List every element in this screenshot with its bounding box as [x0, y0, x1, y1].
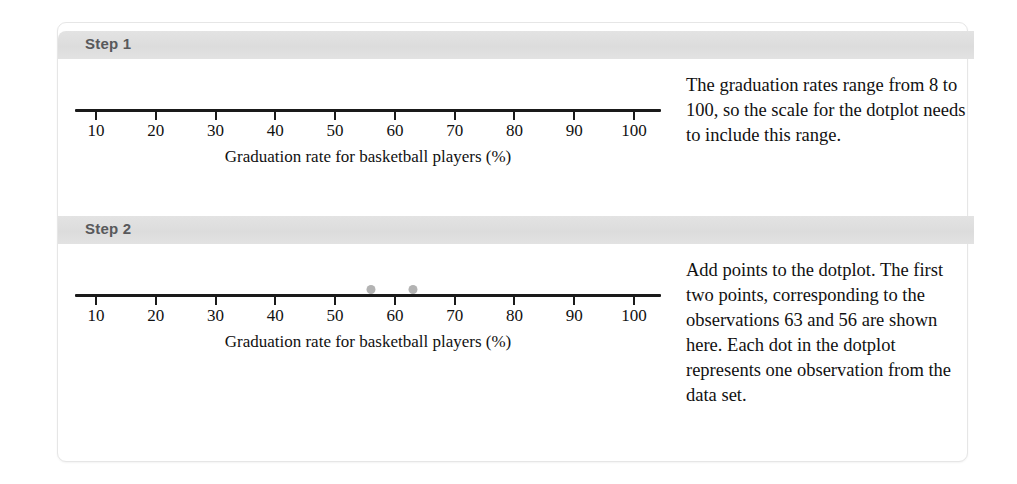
axis-title-step-1: Graduation rate for basketball players (…	[58, 147, 678, 167]
axis-tick-label: 70	[446, 121, 463, 141]
step-1-note: The graduation rates range from 8 to 100…	[686, 73, 966, 148]
axis-tick-label: 60	[386, 306, 403, 326]
axis-tick	[573, 297, 575, 305]
steps-card: Step 1 102030405060708090100 Graduation …	[57, 22, 968, 462]
step-banner-2: Step 2	[58, 216, 974, 244]
axis-tick	[454, 297, 456, 305]
axis-tick	[155, 112, 157, 120]
axis-tick	[215, 112, 217, 120]
axis-tick-label: 20	[147, 306, 164, 326]
axis-tick	[334, 112, 336, 120]
axis-tick	[274, 112, 276, 120]
axis-tick-label: 90	[566, 306, 583, 326]
dotplot-step-1: 102030405060708090100 Graduation rate fo…	[58, 83, 678, 149]
axis-tick-label: 10	[88, 121, 105, 141]
axis-tick-label: 40	[267, 121, 284, 141]
axis-tick	[274, 297, 276, 305]
axis-tick	[513, 112, 515, 120]
axis-tick-label: 50	[327, 121, 344, 141]
axis-tick-label: 90	[566, 121, 583, 141]
axis-tick-label: 30	[207, 121, 224, 141]
axis-tick	[215, 297, 217, 305]
step-2-note: Add points to the dotplot. The first two…	[686, 258, 966, 408]
axis-tick	[513, 297, 515, 305]
axis-step-2: 102030405060708090100	[58, 268, 678, 334]
axis-tick-label: 100	[621, 306, 647, 326]
axis-tick-label: 40	[267, 306, 284, 326]
axis-tick	[95, 112, 97, 120]
axis-tick-label: 50	[327, 306, 344, 326]
axis-tick-label: 70	[446, 306, 463, 326]
axis-tick-label: 100	[621, 121, 647, 141]
step-2-label: Step 2	[85, 220, 131, 237]
axis-tick-label: 80	[506, 121, 523, 141]
axis-tick	[95, 297, 97, 305]
data-point-dot	[366, 285, 375, 294]
axis-tick-label: 60	[386, 121, 403, 141]
dotplot-step-2: 102030405060708090100 Graduation rate fo…	[58, 268, 678, 334]
axis-tick	[155, 297, 157, 305]
axis-tick	[633, 112, 635, 120]
axis-tick	[394, 297, 396, 305]
step-banner-1: Step 1	[58, 31, 974, 59]
axis-step-1: 102030405060708090100	[58, 83, 678, 149]
axis-tick	[334, 297, 336, 305]
axis-tick	[394, 112, 396, 120]
axis-title-step-2: Graduation rate for basketball players (…	[58, 332, 678, 352]
axis-tick	[573, 112, 575, 120]
axis-tick-label: 30	[207, 306, 224, 326]
axis-tick-label: 20	[147, 121, 164, 141]
data-point-dot	[408, 285, 417, 294]
axis-tick	[454, 112, 456, 120]
axis-tick-label: 10	[88, 306, 105, 326]
step-1-label: Step 1	[85, 35, 131, 52]
dotplot-steps-figure: Step 1 102030405060708090100 Graduation …	[0, 0, 1017, 484]
axis-tick-label: 80	[506, 306, 523, 326]
axis-tick	[633, 297, 635, 305]
